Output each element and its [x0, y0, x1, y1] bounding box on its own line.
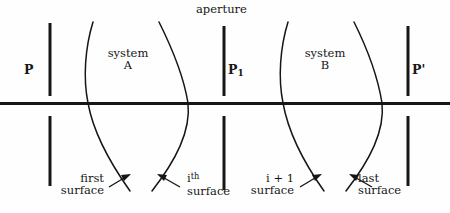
ith-surface-label-superscript: th	[191, 171, 200, 181]
system-b-label: system B	[296, 47, 354, 71]
i-plus-1-surface-label: i + 1 surface	[232, 172, 294, 196]
plane-p1-label: P1	[228, 63, 244, 78]
plane-p1-label-base: P	[228, 62, 237, 77]
last-surface-label-line2: surface	[358, 184, 418, 196]
aperture-label: aperture	[196, 3, 247, 15]
first-surface-label-line2: surface	[44, 184, 104, 196]
system-b-label-line2: B	[296, 59, 354, 71]
plane-p1-label-subscript: 1	[237, 68, 243, 78]
plane-p-prime-label-prime: '	[421, 62, 425, 77]
plane-p-prime-label-base: P	[412, 62, 421, 77]
system-a-ith-surface	[152, 22, 188, 191]
plane-p-label: P	[24, 63, 33, 76]
system-a-label-line2: A	[99, 59, 157, 71]
arrowhead-ith-surface	[157, 174, 167, 181]
system-a-label: system A	[99, 47, 157, 71]
i-plus-1-surface-label-line2: surface	[232, 184, 294, 196]
first-surface-label: first surface	[44, 172, 104, 196]
optical-system-diagram: aperture P P1 P' system A system B first…	[0, 0, 450, 213]
plane-p-prime-label: P'	[412, 63, 425, 76]
last-surface-label: last surface	[358, 172, 418, 196]
